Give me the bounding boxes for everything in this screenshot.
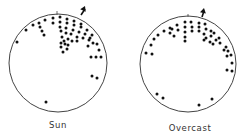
data-point (171, 28, 174, 31)
sun-direction-arrow-icon (80, 6, 85, 15)
data-point (145, 52, 148, 55)
sun-diagram (9, 6, 107, 112)
data-point (60, 46, 63, 49)
data-point (66, 18, 69, 21)
data-point (204, 23, 207, 26)
data-point (163, 30, 166, 33)
data-point (151, 53, 154, 56)
data-point (223, 49, 226, 52)
data-point (80, 26, 83, 29)
data-point (60, 42, 63, 45)
data-point (191, 30, 194, 33)
data-point (71, 40, 74, 43)
data-point (226, 69, 229, 72)
data-point (32, 24, 35, 27)
data-point (91, 34, 94, 37)
data-point (66, 22, 69, 25)
data-point (153, 38, 156, 41)
data-point (65, 32, 68, 35)
data-point (95, 56, 98, 59)
data-point (150, 44, 153, 47)
data-point (60, 30, 63, 33)
data-point (16, 41, 19, 44)
data-point (25, 29, 28, 32)
data-point (96, 77, 99, 80)
data-point (41, 30, 44, 33)
data-point (177, 29, 180, 32)
data-point (205, 37, 208, 40)
data-point (231, 62, 234, 65)
data-point (225, 46, 228, 49)
data-point (230, 54, 233, 57)
data-point (203, 33, 206, 36)
data-point (191, 26, 194, 29)
data-point (63, 40, 66, 43)
data-point (231, 70, 234, 73)
data-point (98, 49, 101, 52)
data-point (59, 16, 62, 19)
data-point (91, 75, 94, 78)
overcast-circle (140, 16, 236, 112)
data-point (100, 56, 103, 59)
data-point (61, 36, 64, 39)
data-point (92, 42, 95, 45)
data-point (52, 22, 55, 25)
data-point (219, 42, 222, 45)
data-point (59, 26, 62, 29)
sun-label: Sun (33, 120, 83, 130)
data-point (72, 29, 75, 32)
data-point (198, 22, 201, 25)
data-point (39, 26, 42, 29)
overcast-label: Overcast (160, 123, 220, 133)
data-point (76, 36, 79, 39)
data-point (52, 17, 55, 20)
data-point (84, 33, 87, 36)
data-point (82, 37, 85, 40)
data-point (43, 34, 46, 37)
data-point (73, 20, 76, 23)
data-point (211, 98, 214, 101)
data-point (198, 104, 201, 107)
data-point (59, 21, 62, 24)
data-point (213, 32, 216, 35)
data-point (226, 55, 229, 58)
data-point (73, 24, 76, 27)
data-point (176, 24, 179, 27)
data-point (210, 35, 213, 38)
data-point (198, 30, 201, 33)
data-point (210, 30, 213, 33)
data-point (209, 41, 212, 44)
data-point (38, 22, 41, 25)
data-point (184, 31, 187, 34)
data-point (218, 37, 221, 40)
data-point (173, 35, 176, 38)
data-point (87, 45, 90, 48)
data-point (76, 40, 79, 43)
data-point (70, 33, 73, 36)
data-point (96, 43, 99, 46)
data-point (65, 27, 68, 30)
data-point (156, 93, 159, 96)
data-point (198, 26, 201, 29)
data-point (215, 39, 218, 42)
overcast-diagram (140, 8, 236, 112)
data-point (184, 36, 187, 39)
data-point (78, 31, 81, 34)
data-point (67, 38, 70, 41)
data-point (184, 21, 187, 24)
data-point (45, 101, 48, 104)
data-point (90, 56, 93, 59)
sun-circle (9, 14, 107, 112)
data-point (80, 23, 83, 26)
overcast-direction-arrow-icon (200, 8, 206, 17)
data-point (190, 21, 193, 24)
data-point (44, 19, 47, 22)
data-point (184, 40, 187, 43)
data-point (66, 48, 69, 51)
orientation-diagrams (0, 0, 249, 138)
data-point (88, 39, 91, 42)
data-point (62, 51, 65, 54)
data-point (86, 29, 89, 32)
data-point (227, 50, 230, 53)
data-point (205, 28, 208, 31)
